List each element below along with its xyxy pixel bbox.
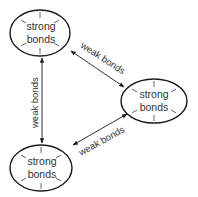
bonds-diagram: strong bonds strong bonds strong bonds	[0, 0, 198, 197]
node-right: strong bonds	[121, 79, 187, 123]
node-label-line2: bonds	[28, 168, 57, 180]
edge-label: weak bonds	[78, 39, 128, 77]
edge-bottom-to-right: weak bonds	[73, 114, 127, 158]
edge-top-to-right: weak bonds	[71, 39, 128, 87]
node-label-line2: bonds	[27, 33, 56, 45]
node-label-line1: strong	[27, 155, 56, 167]
edge-top-to-bottom: weak bonds	[29, 58, 42, 143]
node-label-line1: strong	[139, 88, 168, 100]
node-bottom-left: strong bonds	[10, 145, 72, 191]
edge-label: weak bonds	[29, 77, 40, 129]
node-top-left: strong bonds	[10, 10, 70, 56]
node-label-line1: strong	[26, 20, 55, 32]
node-label-line2: bonds	[140, 101, 169, 113]
